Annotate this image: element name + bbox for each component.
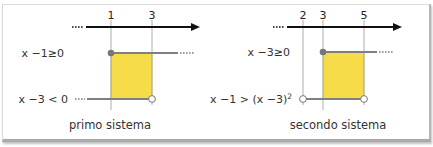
tick-label: 3	[320, 9, 327, 22]
solution-region	[323, 52, 364, 99]
panel-primo-sistema: 1 3 x −1≥0 x −3 < 0 primo sistema	[19, 9, 200, 132]
panel-secondo-sistema: 2 3 5 x −3≥0 x −1 > (x −3)2 secondo sist…	[210, 9, 402, 132]
tick-label: 3	[149, 9, 156, 22]
sign-chart-diagram: 1 3 x −1≥0 x −3 < 0 primo sistema 2 3 5 …	[0, 0, 433, 147]
closed-endpoint-icon	[108, 50, 115, 57]
inequality-label: x −3≥0	[248, 46, 290, 59]
panel-caption: primo sistema	[69, 118, 151, 132]
closed-endpoint-icon	[320, 49, 327, 56]
tick-label: 2	[300, 9, 307, 22]
tick-label: 1	[108, 9, 115, 22]
inequality-label: x −3 < 0	[19, 93, 68, 106]
open-endpoint-icon	[149, 96, 156, 103]
open-endpoint-icon	[361, 96, 368, 103]
tick-label: 5	[361, 9, 368, 22]
inequality-label: x −1 > (x −3)2	[210, 92, 292, 106]
inequality-label: x −1≥0	[22, 47, 64, 60]
axis-arrow-icon	[191, 23, 200, 31]
panel-caption: secondo sistema	[290, 118, 387, 132]
solution-region	[111, 53, 152, 99]
axis-arrow-icon	[393, 23, 402, 31]
open-endpoint-icon	[300, 96, 307, 103]
